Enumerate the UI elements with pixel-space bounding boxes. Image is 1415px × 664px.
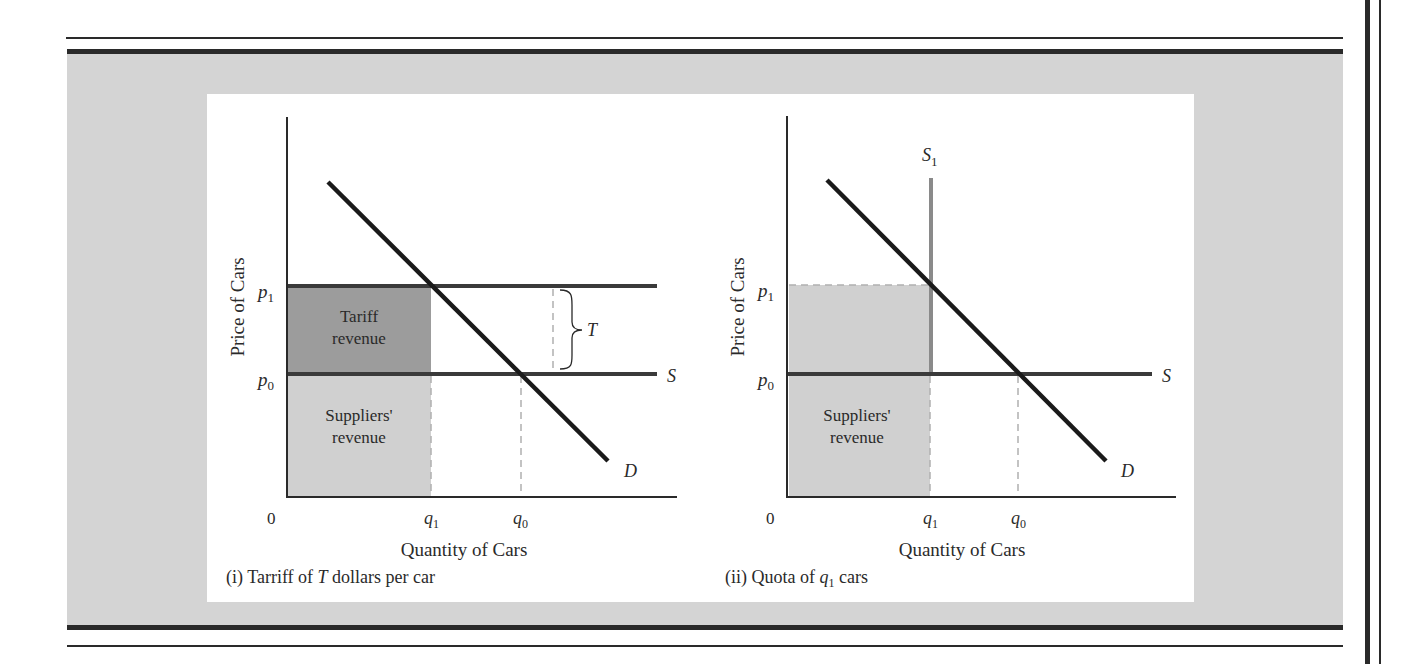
tariff-brace-icon — [560, 290, 582, 369]
suppliers-revenue-region — [789, 285, 930, 497]
y-axis-label: Price of Cars — [727, 257, 748, 356]
x-tick-q0: q0 — [513, 508, 528, 531]
quota-supply-label: S1 — [922, 145, 938, 169]
y-tick-p0: p0 — [756, 369, 774, 393]
tariff-gap-label: T — [587, 320, 599, 340]
figure-svg: Price of Cars p1 p0 Tariff revenue Suppl… — [0, 0, 1415, 664]
origin-label: 0 — [267, 509, 276, 528]
x-tick-q1: q1 — [923, 508, 938, 531]
demand-label: D — [623, 461, 637, 481]
tariff-chart: Price of Cars p1 p0 Tariff revenue Suppl… — [226, 117, 677, 588]
region-label-suppliers-2: revenue — [830, 428, 884, 447]
quota-chart: Price of Cars p1 p0 Suppliers' revenue S… — [725, 116, 1176, 590]
x-axis-label: Quantity of Cars — [401, 539, 528, 560]
y-axis-label: Price of Cars — [227, 257, 248, 356]
x-tick-q0: q0 — [1011, 508, 1026, 531]
panel-caption: (i) Tarriff of T dollars per car — [226, 567, 435, 588]
y-tick-p0: p0 — [256, 369, 274, 393]
supply-label: S — [667, 366, 676, 386]
y-tick-p1: p1 — [256, 281, 274, 305]
origin-label: 0 — [766, 509, 775, 528]
x-axis-label: Quantity of Cars — [899, 539, 1026, 560]
supply-label: S — [1162, 366, 1171, 386]
y-tick-p1: p1 — [756, 280, 774, 304]
region-label-suppliers-1: Suppliers' — [325, 406, 392, 425]
region-label-suppliers-1: Suppliers' — [823, 406, 890, 425]
region-label-suppliers-2: revenue — [332, 428, 386, 447]
x-tick-q1: q1 — [424, 508, 439, 531]
region-label-tariff-1: Tariff — [340, 307, 378, 326]
region-label-tariff-2: revenue — [332, 329, 386, 348]
panel-caption: (ii) Quota of q1 cars — [725, 567, 868, 590]
demand-label: D — [1120, 461, 1134, 481]
